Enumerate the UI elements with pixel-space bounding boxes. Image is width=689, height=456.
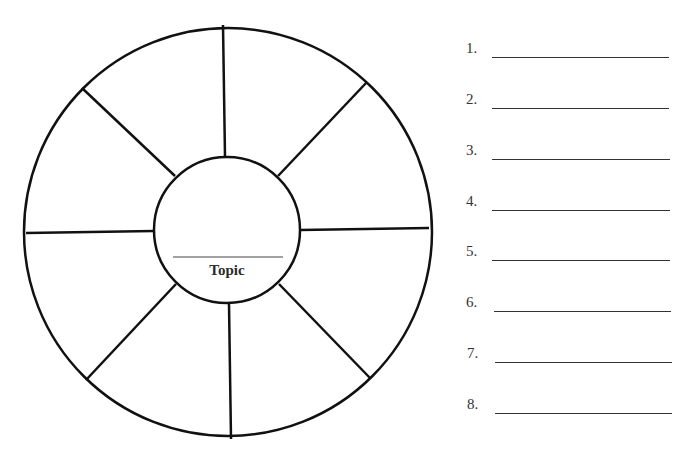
answer-line-1[interactable] xyxy=(492,57,669,58)
spoke-top-left xyxy=(82,88,175,176)
list-number: 3. xyxy=(466,142,477,159)
spoke-bottom-left xyxy=(86,284,176,380)
answer-line-4[interactable] xyxy=(492,210,670,211)
spoke-bottom-right xyxy=(279,284,370,378)
spoke-bottom xyxy=(229,304,231,439)
list-number: 1. xyxy=(466,40,477,57)
list-number: 6. xyxy=(466,294,477,311)
answer-line-5[interactable] xyxy=(492,260,670,261)
topic-wheel-diagram xyxy=(0,0,460,456)
spoke-left xyxy=(26,231,154,233)
spoke-right xyxy=(300,228,429,230)
topic-label: Topic xyxy=(187,262,267,279)
spoke-top-right xyxy=(278,82,367,176)
answer-line-6[interactable] xyxy=(494,311,671,312)
list-number: 4. xyxy=(466,193,477,210)
list-number: 2. xyxy=(466,91,477,108)
list-number: 5. xyxy=(466,243,477,260)
list-number: 8. xyxy=(467,396,478,413)
answer-line-3[interactable] xyxy=(492,159,670,160)
inner-topic-circle xyxy=(154,157,300,303)
answer-line-7[interactable] xyxy=(495,362,672,363)
answer-line-8[interactable] xyxy=(495,413,672,414)
spoke-top xyxy=(223,25,225,157)
list-number: 7. xyxy=(467,345,478,362)
answer-line-2[interactable] xyxy=(492,108,669,109)
